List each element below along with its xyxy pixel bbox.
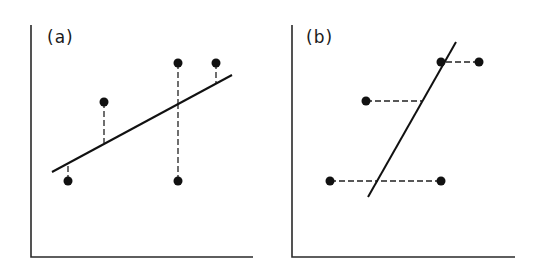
panel-b-points xyxy=(326,58,484,186)
data-point xyxy=(437,177,446,186)
regression-diagram: (a) (b) xyxy=(0,0,537,271)
data-point xyxy=(174,177,183,186)
panel-a-label: (a) xyxy=(47,27,74,47)
data-point xyxy=(64,177,73,186)
data-point xyxy=(362,97,371,106)
data-point xyxy=(174,59,183,68)
panel-a-fit-line xyxy=(52,75,232,172)
panel-a-axes xyxy=(31,25,253,257)
data-point xyxy=(212,59,221,68)
data-point xyxy=(100,98,109,107)
panel-b-label: (b) xyxy=(306,27,333,47)
panel-a-residuals xyxy=(68,63,216,181)
panel-b: (b) xyxy=(292,25,515,257)
panel-a-points xyxy=(64,59,221,186)
panel-a: (a) xyxy=(31,25,253,257)
data-point xyxy=(475,58,484,67)
data-point xyxy=(326,177,335,186)
panel-b-residuals xyxy=(330,62,479,181)
data-point xyxy=(437,58,446,67)
